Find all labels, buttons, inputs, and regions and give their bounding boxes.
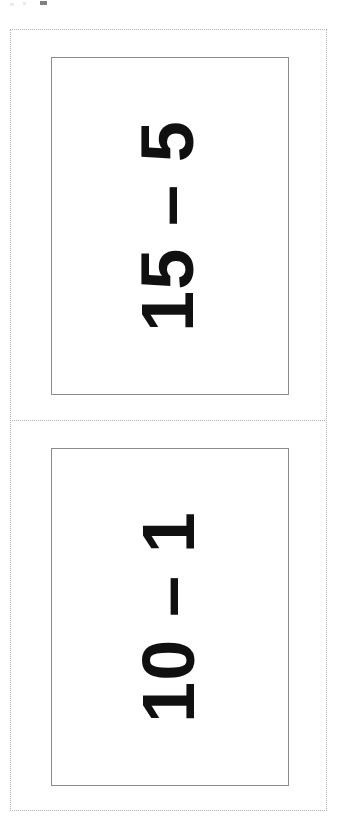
flashcard-top[interactable]: 15 – 5	[51, 57, 289, 395]
flashcard-top-text-area: 15 – 5	[51, 58, 286, 394]
scan-artifact-speck	[10, 3, 14, 6]
flashcard-bottom[interactable]: 10 – 1	[51, 448, 289, 786]
flashcard-top-problem: 15 – 5	[131, 120, 205, 332]
flashcard-bottom-text-area: 10 – 1	[51, 449, 287, 785]
flashcard-cell-bottom: 10 – 1	[10, 421, 327, 811]
flashcard-cell-top: 15 – 5	[10, 29, 327, 420]
scan-artifact-speck	[40, 1, 47, 5]
flashcard-bottom-problem: 10 – 1	[132, 511, 206, 723]
scan-artifact-speck	[23, 2, 26, 5]
worksheet-sheet: 15 – 5 10 – 1	[0, 0, 340, 827]
